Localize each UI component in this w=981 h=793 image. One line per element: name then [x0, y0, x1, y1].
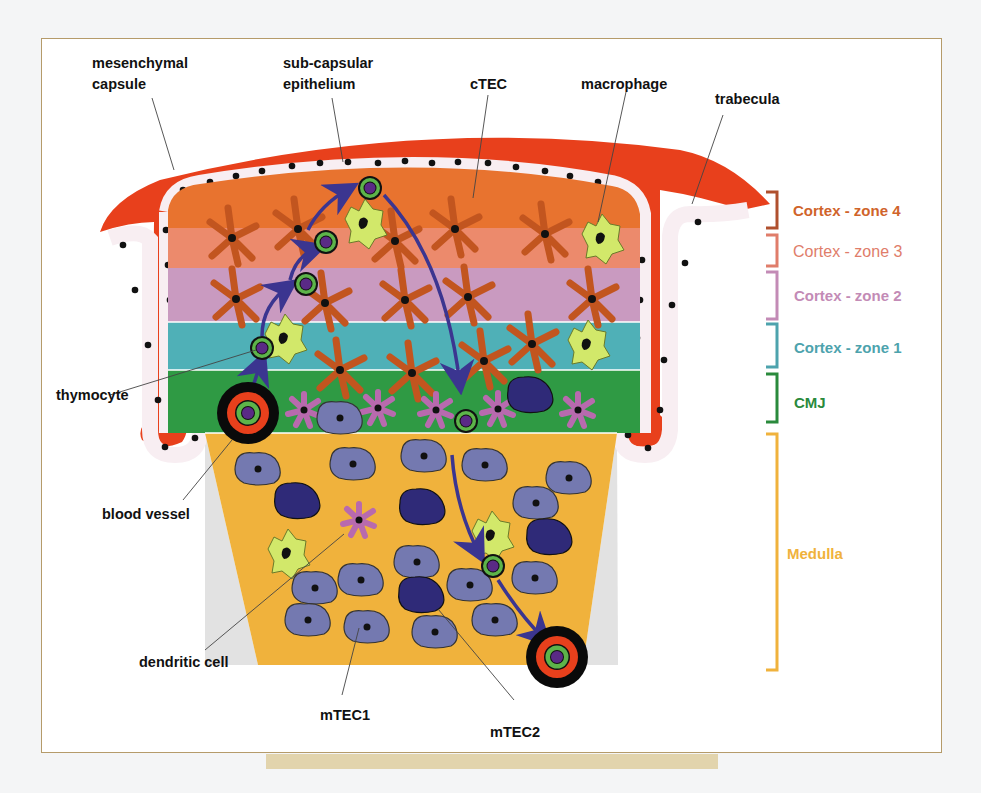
- zone-labels: Cortex - zone 4 Cortex - zone 3 Cortex -…: [787, 202, 902, 562]
- label-mtec2: mTEC2: [490, 724, 540, 740]
- bracket-zone1: [766, 324, 777, 367]
- bracket-zone2: [766, 272, 777, 319]
- label-mtec1: mTEC1: [320, 707, 370, 723]
- bracket-zone3: [766, 235, 777, 266]
- zone-brackets: [766, 192, 777, 670]
- bracket-zone4: [766, 192, 777, 228]
- figure-canvas: mesenchymal capsule sub-capsular epithel…: [0, 0, 981, 793]
- label-subcapsular-2: epithelium: [283, 76, 356, 92]
- blood-vessel-exit: [526, 626, 588, 688]
- label-mesenchymal-capsule-1: mesenchymal: [92, 55, 188, 71]
- label-macrophage: macrophage: [581, 76, 667, 92]
- label-blood-vessel: blood vessel: [102, 506, 190, 522]
- label-cmj: CMJ: [794, 394, 826, 411]
- label-medulla: Medulla: [787, 545, 843, 562]
- label-zone1: Cortex - zone 1: [794, 339, 902, 356]
- thymus-diagram: mesenchymal capsule sub-capsular epithel…: [0, 0, 981, 793]
- label-trabecula: trabecula: [715, 91, 780, 107]
- bracket-medulla: [766, 434, 777, 670]
- label-zone2: Cortex - zone 2: [794, 287, 902, 304]
- label-mesenchymal-capsule-2: capsule: [92, 76, 146, 92]
- label-thymocyte: thymocyte: [56, 387, 129, 403]
- blood-vessel-entry: [217, 382, 279, 444]
- label-ctec: cTEC: [470, 76, 508, 92]
- label-dendritic-cell: dendritic cell: [139, 654, 228, 670]
- label-subcapsular-1: sub-capsular: [283, 55, 374, 71]
- label-zone4: Cortex - zone 4: [793, 202, 901, 219]
- bracket-cmj: [766, 374, 777, 422]
- label-zone3: Cortex - zone 3: [793, 243, 902, 260]
